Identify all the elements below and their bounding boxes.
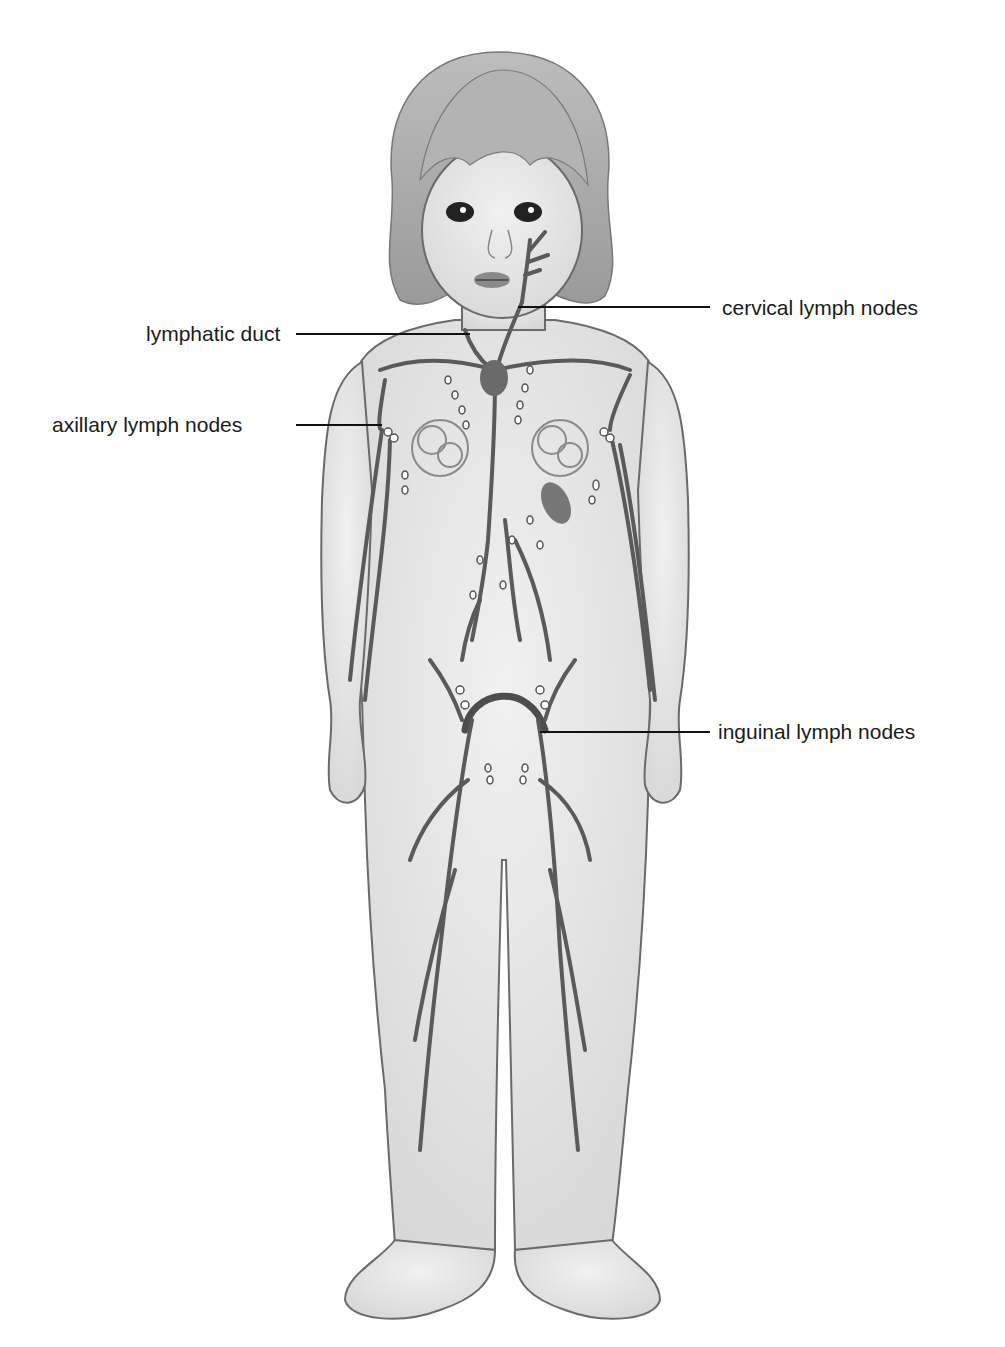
thymus xyxy=(480,360,508,396)
label-axillary-lymph-nodes: axillary lymph nodes xyxy=(52,413,242,437)
inguinal-leader-line xyxy=(540,731,710,733)
lymphatic-duct-leader-line xyxy=(296,333,470,335)
child-body-illustration xyxy=(0,0,1005,1347)
label-lymphatic-duct: lymphatic duct xyxy=(146,322,280,346)
cervical-leader-line xyxy=(518,306,710,308)
label-cervical-lymph-nodes: cervical lymph nodes xyxy=(722,296,918,320)
axillary-leader-line xyxy=(296,424,382,426)
label-inguinal-lymph-nodes: inguinal lymph nodes xyxy=(718,720,915,744)
lymphatic-system-diagram: cervical lymph nodes lymphatic duct axil… xyxy=(0,0,1005,1347)
